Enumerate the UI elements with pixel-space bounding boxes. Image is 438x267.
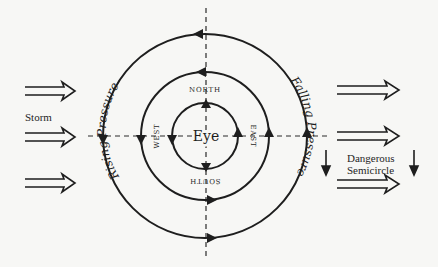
hollow-arrow-icon — [337, 127, 399, 145]
hollow-arrow-icon — [25, 128, 75, 146]
arrow-right-icon — [207, 233, 217, 243]
down-arrow-icon — [322, 166, 330, 175]
storm-label: Storm — [25, 111, 52, 123]
arrow-up-icon — [233, 127, 243, 137]
down-arrow-icon — [410, 166, 418, 175]
arrow-up-icon — [264, 127, 274, 137]
arrow-down-icon — [136, 135, 146, 145]
storm-motion-arrows-left — [25, 82, 75, 192]
arrow-down-icon — [201, 163, 211, 172]
dangerous-semicircle-label-line1: Dangerous — [347, 152, 395, 164]
north-label: NORTH — [189, 86, 221, 94]
arrow-down-icon — [167, 135, 177, 145]
hollow-arrow-icon — [25, 82, 75, 100]
eye-label: Eye — [193, 128, 219, 144]
rising-pressure-text: Rising Pressure — [95, 80, 123, 183]
falling-pressure-text: Falling Pressure — [287, 73, 319, 179]
hollow-arrow-icon — [337, 81, 399, 99]
storm-motion-arrows-right — [337, 81, 399, 193]
dangerous-semicircle-label-line2: Semicircle — [347, 164, 394, 176]
hollow-arrow-icon — [25, 174, 75, 192]
arrow-left-icon — [193, 29, 203, 39]
arrow-left-icon — [196, 67, 206, 77]
arrow-right-icon — [207, 195, 217, 205]
falling-pressure-label: Falling Pressure — [287, 73, 319, 179]
west-label: WEST — [153, 124, 161, 149]
cyclone-diagram: Eye NORTH SOUTH WEST EAST Rising Pressur… — [0, 0, 438, 267]
south-label: SOUTH — [189, 177, 220, 185]
rising-pressure-label: Rising Pressure — [95, 80, 123, 183]
hollow-arrow-icon — [337, 175, 399, 193]
east-label: EAST — [249, 125, 257, 148]
